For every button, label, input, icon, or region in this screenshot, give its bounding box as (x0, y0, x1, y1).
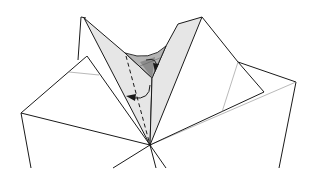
origami-diagram (0, 0, 311, 178)
diagram-canvas (0, 0, 311, 178)
